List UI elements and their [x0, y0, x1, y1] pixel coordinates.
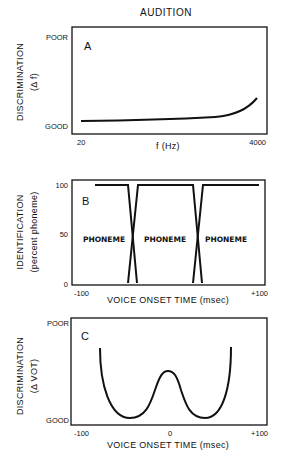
- panel-a-ylabel: DISCRIMINATION: [15, 43, 25, 121]
- panel-a-curve: [81, 98, 257, 121]
- panel-c-xtick-0: 0: [168, 429, 172, 438]
- phoneme-label-3: PHONEME: [205, 235, 247, 244]
- panel-b-xtick-plus100: +100: [251, 289, 268, 298]
- panel-a-xlabel: f (Hz): [156, 141, 180, 151]
- panel-c-ylabel2: (Δ VOT): [29, 359, 39, 394]
- panel-b: B IDENTIFICATION (percent phoneme) 100 5…: [15, 180, 268, 305]
- panel-a-ytick-poor: POOR: [46, 33, 69, 42]
- panel-a-ylabel2: (Δ f): [29, 73, 39, 91]
- identification-curve-3: [193, 185, 259, 283]
- panel-c-xtick-minus100: -100: [74, 429, 89, 438]
- phoneme-label-1: PHONEME: [83, 235, 125, 244]
- panel-a: A DISCRIMINATION (Δ f) POOR GOOD 20 4000…: [15, 27, 267, 151]
- figure-title: AUDITION: [140, 7, 192, 18]
- panel-b-ylabel2: (percent phoneme): [29, 191, 39, 272]
- panel-c-curve: [100, 347, 231, 418]
- panel-a-xtick-4000: 4000: [249, 138, 266, 147]
- panel-a-frame: [72, 27, 267, 134]
- panel-c-label: C: [81, 330, 89, 342]
- panel-b-ytick-0: 0: [64, 280, 68, 289]
- panel-c-xtick-plus100: +100: [251, 429, 268, 438]
- panel-b-ytick-100: 100: [55, 181, 68, 190]
- panel-c-ytick-good: GOOD: [46, 416, 70, 425]
- panel-c-ytick-poor: POOR: [47, 319, 70, 328]
- panel-a-xtick-20: 20: [77, 138, 85, 147]
- panel-b-xtick-minus100: -100: [74, 289, 89, 298]
- panel-b-ylabel: IDENTIFICATION: [15, 194, 25, 269]
- phoneme-label-2: PHONEME: [144, 235, 186, 244]
- panel-b-frame: [72, 180, 265, 285]
- panel-a-label: A: [84, 40, 92, 52]
- figure: AUDITION A DISCRIMINATION (Δ f) POOR GOO…: [0, 0, 282, 462]
- identification-curve-1: [95, 185, 137, 283]
- panel-a-ytick-good: GOOD: [45, 122, 69, 131]
- panel-b-label: B: [82, 195, 89, 207]
- identification-curve-2: [128, 185, 202, 283]
- panel-c-xlabel: VOICE ONSET TIME (msec): [107, 440, 229, 450]
- panel-b-xlabel: VOICE ONSET TIME (msec): [107, 295, 229, 305]
- panel-c-ylabel: DISCRIMINATION: [15, 337, 25, 415]
- panel-c: C DISCRIMINATION (Δ VOT) POOR GOOD -100 …: [15, 318, 268, 450]
- panel-b-ytick-50: 50: [60, 230, 68, 239]
